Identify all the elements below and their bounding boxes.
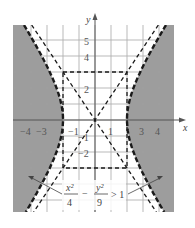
term1-denominator: 4 <box>67 197 72 208</box>
y-tick-neg2: −2 <box>78 148 89 159</box>
x-tick-4: 4 <box>155 126 160 137</box>
y-axis-label: y <box>85 14 91 25</box>
x-tick-neg3: −3 <box>36 126 47 137</box>
x-tick-neg4: −4 <box>20 126 31 137</box>
y-tick-5: 5 <box>84 36 89 47</box>
term1-numerator: x² <box>65 182 74 193</box>
x-tick-3: 3 <box>139 126 144 137</box>
y-tick-neg1: −1 <box>78 132 89 143</box>
y-tick-2: 2 <box>84 84 89 95</box>
term2-numerator: y² <box>95 182 104 193</box>
x-tick-1: 1 <box>108 126 113 137</box>
term2-denominator: 9 <box>97 197 102 208</box>
y-axis-arrow-icon <box>93 13 98 20</box>
minus-sign: − <box>82 188 88 199</box>
x-axis-label: x <box>182 122 188 133</box>
y-tick-4: 4 <box>84 52 89 63</box>
hyperbola-inequality-graph: y x −4 −3 −1 1 3 4 5 4 2 −1 −2 x² 4 − y²… <box>0 0 195 228</box>
inequality-rhs: > 1 <box>111 189 124 200</box>
